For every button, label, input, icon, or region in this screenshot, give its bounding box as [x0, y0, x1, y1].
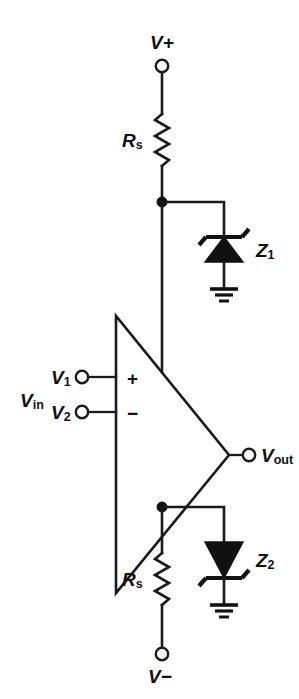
label-vin-subscript: in [33, 398, 44, 412]
label-z2-text: Z [256, 550, 268, 571]
label-vin-text: V [20, 390, 33, 411]
label-v-plus-text: V+ [150, 32, 174, 53]
label-rs-bottom-text: R [122, 569, 136, 590]
zener-z2-triangle [205, 542, 243, 578]
label-rs-top-text: R [122, 130, 136, 151]
resistor-rs-bottom [155, 553, 169, 605]
terminal-v-plus[interactable] [156, 60, 168, 72]
label-z2: Z2 [256, 551, 275, 572]
terminal-v1[interactable] [76, 371, 88, 383]
resistor-rs-top [155, 114, 169, 166]
label-v1-subscript: 1 [64, 375, 71, 389]
label-v2: V2 [51, 403, 71, 424]
label-v1-text: V [51, 367, 64, 388]
label-rs-bottom: Rs [122, 570, 143, 591]
label-vout-text: V [261, 445, 274, 466]
label-v-minus: V− [148, 667, 172, 686]
opamp-plus-symbol: + [127, 369, 138, 388]
label-rs-top-subscript: s [136, 138, 143, 152]
zener-z1-triangle [205, 237, 243, 262]
label-v-minus-text: V− [148, 666, 172, 687]
wire-node1-to-z1 [162, 202, 224, 237]
label-rs-bottom-subscript: s [136, 577, 143, 591]
terminal-vout[interactable] [243, 449, 255, 461]
label-z1-subscript: 1 [268, 248, 275, 262]
label-z1-text: Z [256, 240, 268, 261]
terminal-v-minus[interactable] [156, 648, 168, 660]
label-z1: Z1 [256, 241, 275, 262]
label-vout-subscript: out [274, 453, 293, 467]
schematic-canvas [0, 0, 299, 699]
label-v-plus: V+ [150, 33, 174, 52]
label-rs-top: Rs [122, 131, 143, 152]
zener-z1-bend-right [242, 229, 249, 237]
zener-z2-bend-right [242, 570, 249, 578]
label-vout: Vout [261, 446, 293, 467]
zener-z1-bend-left [199, 237, 206, 245]
label-vin: Vin [20, 391, 44, 412]
label-z2-subscript: 2 [268, 558, 275, 572]
terminal-v2[interactable] [76, 406, 88, 418]
circuit-diagram: V+ Rs Z1 V1 Vin V2 + − Vout Z2 Rs V− [0, 0, 299, 699]
label-v2-subscript: 2 [64, 410, 71, 424]
label-v1: V1 [51, 368, 71, 389]
opamp-minus-symbol: − [127, 404, 138, 423]
zener-z2-bend-left [199, 578, 206, 586]
label-v2-text: V [51, 402, 64, 423]
